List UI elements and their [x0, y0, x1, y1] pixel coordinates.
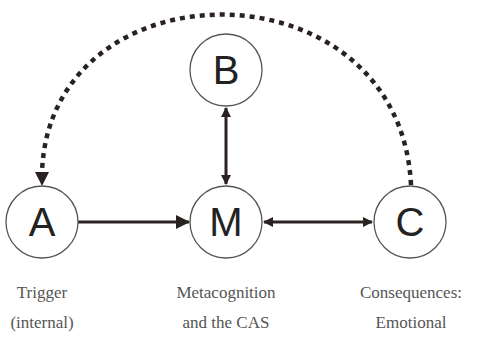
node-a: A	[6, 186, 78, 258]
label-metacognition-line1: Metacognition	[156, 278, 296, 308]
label-consequences-line1: Consequences:	[345, 278, 477, 308]
label-consequences: Consequences: Emotional	[345, 278, 477, 338]
label-trigger-line2: (internal)	[2, 308, 82, 338]
label-metacognition: Metacognition and the CAS	[156, 278, 296, 338]
node-b: B	[190, 34, 262, 106]
arrowhead-into-a-icon	[35, 172, 49, 186]
node-m: M	[190, 186, 262, 258]
node-c-letter: C	[396, 200, 425, 244]
node-m-letter: M	[209, 200, 242, 244]
node-c: C	[374, 186, 446, 258]
label-consequences-line2: Emotional	[345, 308, 477, 338]
node-a-letter: A	[29, 200, 56, 244]
node-b-letter: B	[213, 48, 240, 92]
label-trigger-line1: Trigger	[2, 278, 82, 308]
label-trigger: Trigger (internal)	[2, 278, 82, 338]
label-metacognition-line2: and the CAS	[156, 308, 296, 338]
